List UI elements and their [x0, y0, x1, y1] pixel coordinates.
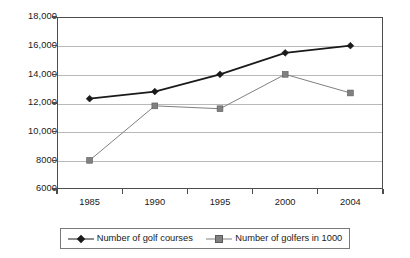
- x-tick-label: 2000: [263, 198, 307, 207]
- x-tick-label: 1995: [198, 198, 242, 207]
- y-axis: 6000800010,00012,00014,00016,00018,000: [0, 0, 57, 206]
- chart-legend: Number of golf coursesNumber of golfers …: [60, 228, 350, 249]
- y-tick-label: 14,000: [5, 70, 57, 79]
- gridline: [58, 75, 382, 76]
- x-tick-label: 1990: [133, 198, 177, 207]
- y-tick-label: 8000: [5, 156, 57, 165]
- y-tick-label: 6000: [5, 184, 57, 193]
- legend-label: Number of golfers in 1000: [235, 234, 342, 243]
- plot-area: [57, 17, 383, 189]
- x-tick-mark: [382, 189, 383, 194]
- x-tick-mark: [317, 189, 318, 194]
- gridline: [58, 46, 382, 47]
- legend-label: Number of golf courses: [97, 234, 193, 243]
- x-tick-mark: [252, 189, 253, 194]
- legend-item[interactable]: Number of golfers in 1000: [206, 234, 342, 244]
- x-tick-mark: [122, 189, 123, 194]
- x-tick-mark: [187, 189, 188, 194]
- y-tick-label: 16,000: [5, 41, 57, 50]
- gridline: [58, 161, 382, 162]
- gridline: [58, 104, 382, 105]
- diamond-marker-icon: [68, 234, 94, 244]
- y-tick-label: 10,000: [5, 127, 57, 136]
- legend-item[interactable]: Number of golf courses: [68, 234, 193, 244]
- x-axis: 19851990199520002004: [57, 189, 383, 215]
- square-marker-icon: [206, 234, 232, 244]
- y-tick-label: 18,000: [5, 12, 57, 21]
- x-tick-label: 1985: [68, 198, 112, 207]
- x-tick-mark: [56, 189, 57, 194]
- y-tick-label: 12,000: [5, 98, 57, 107]
- x-tick-label: 2004: [328, 198, 372, 207]
- gridline: [58, 132, 382, 133]
- line-chart: 6000800010,00012,00014,00016,00018,000 1…: [0, 0, 410, 258]
